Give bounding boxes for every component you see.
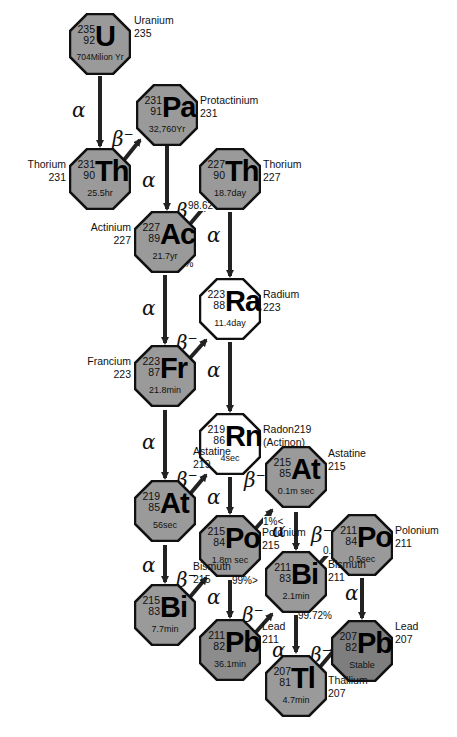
element-symbol: Bi: [160, 591, 187, 623]
half-life: 56sec: [134, 520, 196, 530]
alpha-label: α: [207, 487, 221, 507]
alpha-label: α: [207, 587, 221, 607]
half-life: 21.8min: [134, 385, 196, 395]
half-life: 25.5hr: [69, 188, 131, 198]
half-life: 4.7min: [265, 695, 327, 705]
alpha-label: α: [207, 360, 221, 380]
nuclide-name: Protactinium231: [200, 94, 258, 120]
nuclide-name: Actinium227: [80, 221, 131, 247]
element-symbol: Ra: [225, 285, 260, 317]
alpha-label: α: [142, 432, 156, 452]
nuclide-name: Astatine219: [193, 445, 231, 471]
half-life: 0.1m sec: [265, 486, 327, 496]
alpha-label: α: [142, 298, 156, 318]
nuclide-name: Uranium235: [134, 14, 174, 40]
alpha-label: α: [345, 583, 359, 603]
element-symbol: Po: [225, 522, 260, 554]
nuclide-name: Bismuth215: [193, 560, 231, 586]
nuclide-ra223: 223 88 Ra 11.4day: [199, 278, 261, 340]
half-life: Stable: [331, 660, 393, 670]
half-life: 11.4day: [199, 318, 261, 328]
nuclide-pb207: 207 82 Pb Stable: [331, 620, 393, 682]
element-symbol: Th: [225, 155, 258, 187]
alpha-label: α: [72, 100, 86, 120]
nuclide-fr223: 223 87 Fr 21.8min: [134, 345, 196, 407]
nuclide-at215: 215 85 At 0.1m sec: [265, 446, 327, 508]
nuclide-ac227: 227 89 Ac 21.7yr: [134, 211, 196, 273]
half-life: 21.7yr: [134, 251, 196, 261]
nuclide-u235: 235 92 U 704Milion Yr: [69, 13, 131, 75]
half-life: 18.7day: [199, 188, 261, 198]
nuclide-name: Lead207: [395, 620, 418, 646]
element-symbol: Po: [357, 521, 392, 553]
element-symbol: Ac: [160, 218, 195, 250]
nuclide-th227: 227 90 Th 18.7day: [199, 148, 261, 210]
half-life: 704Milion Yr: [69, 53, 131, 62]
element-symbol: U: [95, 20, 115, 52]
nuclide-name: Polonium211: [395, 524, 439, 550]
alpha-label: α: [142, 170, 156, 190]
nuclide-name: Thorium227: [263, 158, 302, 184]
nuclide-name: Bismuth211: [328, 558, 366, 584]
nuclide-pa231: 231 91 Pa 32,760Yr: [136, 84, 198, 146]
nuclide-at219: 219 85 At 56sec: [134, 480, 196, 542]
element-symbol: Pb: [225, 626, 260, 658]
decay-chain-diagram: α β− α β− α α β− α α β− α β− α β− α β− α…: [0, 0, 457, 737]
half-life: 36.1min: [199, 659, 261, 669]
nuclide-name: Francium223: [80, 355, 131, 381]
element-symbol: Th: [95, 155, 128, 187]
half-life: 2.1min: [265, 591, 327, 601]
element-symbol: At: [291, 453, 320, 485]
nuclide-name: Lead211: [262, 620, 285, 646]
beta-label: β−: [112, 124, 134, 149]
nuclide-name: Thallium207: [328, 674, 368, 700]
nuclide-name: Thorium231: [20, 158, 66, 184]
half-life: 7.7min: [134, 624, 196, 634]
element-symbol: At: [160, 487, 189, 519]
element-symbol: Fr: [160, 352, 187, 384]
half-life: 32,760Yr: [136, 124, 198, 134]
element-symbol: Bi: [291, 558, 318, 590]
nuclide-name: Polonium215: [262, 526, 306, 552]
element-symbol: Pb: [357, 627, 392, 659]
nuclide-pb211: 211 82 Pb 36.1min: [199, 619, 261, 681]
alpha-label: α: [207, 225, 221, 245]
nuclide-name: Astatine215: [328, 447, 366, 473]
nuclide-bi215: 215 83 Bi 7.7min: [134, 584, 196, 646]
alpha-label: α: [142, 555, 156, 575]
element-symbol: Tl: [291, 662, 315, 694]
nuclide-bi211: 211 83 Bi 2.1min: [265, 551, 327, 613]
beta-label: β−: [311, 520, 333, 545]
nuclide-th231: 231 90 Th 25.5hr: [69, 148, 131, 210]
element-symbol: Pa: [162, 91, 195, 123]
nuclide-name: Radium223: [263, 288, 299, 314]
nuclide-tl207: 207 81 Tl 4.7min: [265, 655, 327, 717]
